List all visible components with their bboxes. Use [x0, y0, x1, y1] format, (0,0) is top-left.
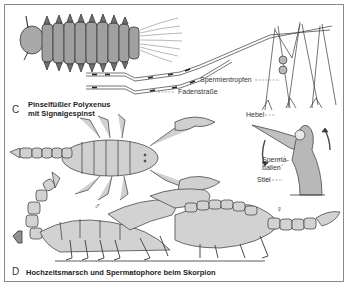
panel-c-title-line2: mit Signalgespinst — [28, 109, 95, 118]
millipede-illustration — [20, 14, 182, 72]
sperm-balls-label-line1: Sperma- — [262, 156, 289, 164]
scorpion-dorsal-illustration — [10, 114, 220, 200]
panel-d-title: Hochzeitsmarsch und Spermatophore beim S… — [26, 268, 216, 277]
panel-c-title-line1: Pinselfüßler Polyxenus — [28, 100, 111, 109]
sperm-balls-label-line2: ballen — [262, 164, 281, 172]
stalk-label: Stiel — [257, 176, 271, 184]
thread-road-label: Fadenstraße — [178, 88, 218, 96]
panel-d-letter: D — [12, 266, 19, 277]
direction-arrow-icon — [13, 231, 22, 243]
sperm-drops-label: Spermientropfen — [200, 76, 252, 84]
lever-label: Hebel — [246, 111, 264, 119]
male-symbol: ♂ — [94, 201, 101, 211]
female-symbol: ♀ — [276, 204, 283, 214]
panel-c-letter: C — [12, 104, 19, 115]
illustration — [0, 0, 349, 288]
